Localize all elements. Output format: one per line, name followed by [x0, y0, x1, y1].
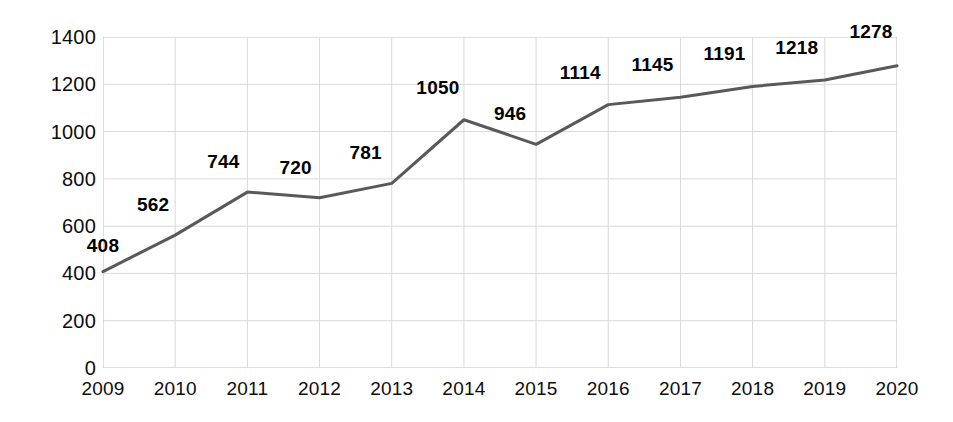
data-point-label: 1145 [631, 54, 673, 76]
y-axis-tick-label: 600 [16, 215, 96, 238]
data-point-label: 562 [137, 194, 169, 216]
data-point-label: 946 [494, 103, 526, 125]
y-axis-tick-label: 1000 [16, 120, 96, 143]
data-point-label: 408 [87, 235, 119, 257]
data-point-label: 1218 [775, 37, 818, 59]
data-point-label: 744 [207, 151, 239, 173]
data-point-label: 1278 [849, 21, 892, 43]
y-axis-tick-label: 400 [16, 262, 96, 285]
data-point-label: 1114 [560, 62, 601, 84]
data-point-label: 720 [279, 157, 311, 179]
plot-area [103, 37, 897, 368]
y-axis-tick-label: 200 [16, 309, 96, 332]
y-axis-tick-label: 800 [16, 167, 96, 190]
data-point-label: 1050 [416, 77, 459, 99]
data-point-label: 1191 [704, 43, 746, 65]
data-series-line [103, 37, 897, 368]
data-point-label: 781 [350, 142, 382, 164]
line-chart: 1400120010008006004002000 20092010201120… [0, 0, 953, 422]
y-axis-tick-label: 1400 [16, 26, 96, 49]
x-axis-tick-label: 2020 [852, 378, 942, 400]
y-axis-tick-label: 1200 [16, 73, 96, 96]
y-axis-tick-label: 0 [16, 357, 96, 380]
